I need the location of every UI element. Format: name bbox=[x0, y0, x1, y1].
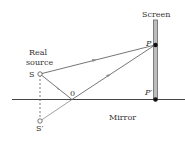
o-label: 0 bbox=[70, 89, 75, 98]
p-prime-label: P′ bbox=[144, 88, 152, 97]
source-point-s bbox=[38, 72, 42, 76]
direct-ray bbox=[40, 45, 155, 74]
s-prime-label: S′ bbox=[36, 124, 43, 133]
image-point-s-prime bbox=[38, 119, 42, 123]
screen-bar bbox=[154, 20, 158, 100]
real-label: Real bbox=[29, 48, 48, 57]
point-p bbox=[153, 43, 157, 47]
source-label: source bbox=[26, 58, 53, 67]
incident-ray bbox=[40, 74, 72, 100]
reflected-ray bbox=[72, 45, 155, 100]
p-label: P bbox=[145, 39, 152, 48]
mirror-label: Mirror bbox=[109, 113, 136, 122]
s-label: S bbox=[29, 70, 34, 79]
screen-label: Screen bbox=[142, 10, 170, 19]
mirror-interference-diagram: Screen Real source S 0 P P′ Mirror S′ bbox=[0, 0, 185, 144]
arrow-icon bbox=[92, 59, 97, 62]
virtual-ray bbox=[40, 100, 72, 122]
point-p-prime bbox=[153, 97, 157, 101]
